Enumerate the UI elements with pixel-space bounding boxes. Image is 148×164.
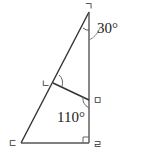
point-label-bottomleft: ㄷ bbox=[8, 138, 17, 149]
geometry-figure: 30° 110° ㄱ ㄴ ㄷ ㄹ ㅁ bbox=[0, 0, 148, 164]
point-label-midright: ㅁ bbox=[93, 95, 102, 106]
point-label-bottomright: ㄹ bbox=[93, 139, 102, 150]
angle-arc-top bbox=[83, 28, 89, 30]
point-label-midleft: ㄴ bbox=[41, 78, 50, 89]
angle-label-110: 110° bbox=[57, 109, 85, 125]
angle-label-30: 30° bbox=[97, 20, 118, 36]
point-label-top: ㄱ bbox=[84, 1, 93, 12]
angle-arc-midleft bbox=[59, 75, 63, 87]
right-angle-marker bbox=[83, 137, 89, 143]
segment-midleft-midright bbox=[53, 83, 89, 100]
